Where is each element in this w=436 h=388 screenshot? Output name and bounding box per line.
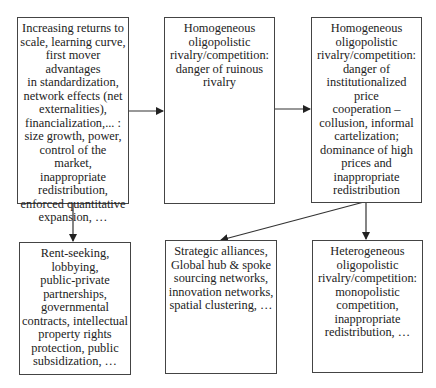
node-price-cooperation-text: Homogeneous oligopolistic rivalry/compet…	[314, 22, 419, 198]
node-ruinous-rivalry-text: Homogeneous oligopolistic rivalry/compet…	[167, 22, 272, 90]
node-strategic-alliances-text: Strategic alliances, Global hub & spoke …	[168, 245, 274, 313]
node-price-cooperation: Homogeneous oligopolistic rivalry/compet…	[311, 17, 422, 203]
node-ruinous-rivalry: Homogeneous oligopolistic rivalry/compet…	[164, 17, 275, 204]
node-heterogeneous-text: Heterogeneous oligopolistic rivalry/comp…	[315, 245, 420, 340]
node-drivers: Increasing returns to scale, learning cu…	[17, 17, 129, 204]
node-strategic-alliances: Strategic alliances, Global hub & spoke …	[165, 240, 277, 374]
node-drivers-text: Increasing returns to scale, learning cu…	[20, 22, 126, 225]
arrow-price-cooperation-to-strategic-alliances	[221, 202, 364, 240]
node-heterogeneous: Heterogeneous oligopolistic rivalry/comp…	[312, 240, 423, 373]
node-rent-seeking: Rent-seeking, lobbying, public-private p…	[19, 242, 131, 375]
node-rent-seeking-text: Rent-seeking, lobbying, public-private p…	[22, 247, 128, 369]
